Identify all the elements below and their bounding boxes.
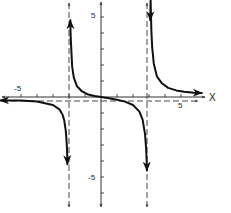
x-tick-label-neg5: -5: [14, 84, 22, 93]
middle-branch-curve: [70, 20, 147, 170]
rational-function-graph: X -5 5 5 -5: [0, 0, 231, 213]
asymptotes: [2, 3, 198, 207]
y-tick-label-5: 5: [91, 11, 96, 20]
x-axis-label: X: [209, 92, 216, 103]
axes: X -5 5 5 -5: [2, 2, 216, 207]
right-branch-curve: [150, 0, 202, 93]
x-tick-label-5: 5: [178, 101, 183, 110]
left-branch-curve: [0, 100, 67, 164]
y-tick-label-neg5: -5: [88, 173, 96, 182]
